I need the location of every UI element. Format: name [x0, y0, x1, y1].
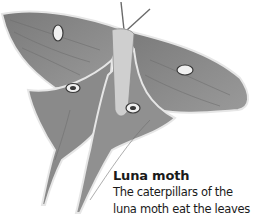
antennae: [121, 2, 150, 30]
figure-caption: Luna moth The caterpillars of the luna m…: [113, 168, 255, 218]
caption-line: luna moth eat the leaves: [113, 201, 255, 218]
caption-line: The caterpillars of the: [113, 184, 255, 201]
caption-title: Luna moth: [113, 168, 255, 184]
